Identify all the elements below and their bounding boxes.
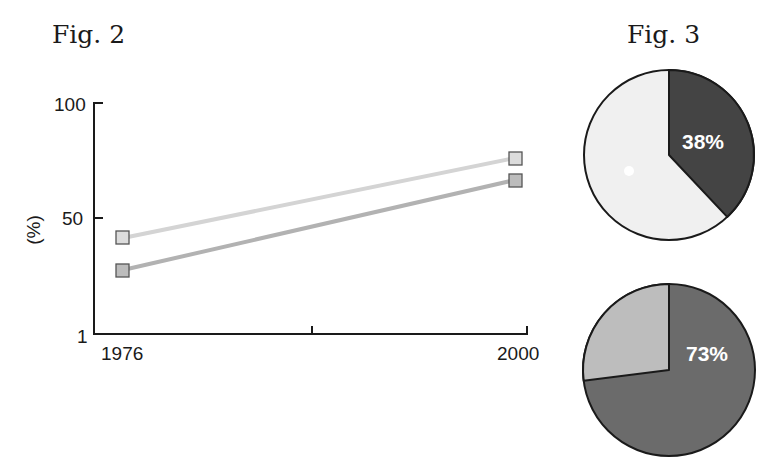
pie2-slice-27 (583, 284, 669, 381)
pie-chart-2: 73% (583, 284, 755, 456)
y-tick-label-1: 1 (77, 326, 88, 347)
y-tick-label-50: 50 (62, 208, 83, 229)
x-tick-label-1976: 1976 (101, 343, 143, 364)
y-axis-label: (%) (23, 215, 44, 245)
pie2-percent-label: 73% (686, 342, 728, 365)
line-chart: 100 50 1 1976 2000 (%) (23, 94, 539, 364)
series-dark-marker-2000 (509, 174, 522, 187)
chart-axes (94, 103, 527, 334)
y-tick-label-100: 100 (54, 94, 86, 115)
pie1-highlight-dot (624, 166, 634, 176)
x-tick-label-2000: 2000 (497, 343, 539, 364)
series-light-marker-1976 (116, 231, 129, 244)
series-light-marker-2000 (509, 152, 522, 165)
charts-canvas: 100 50 1 1976 2000 (%) 38% 73% (0, 0, 763, 470)
y-axis (94, 103, 527, 334)
pie-chart-1: 38% (584, 70, 754, 240)
series-dark-marker-1976 (116, 264, 129, 277)
pie1-percent-label: 38% (682, 130, 724, 153)
